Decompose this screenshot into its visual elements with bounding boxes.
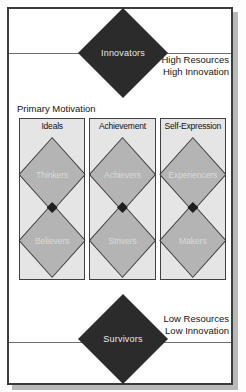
figure-frame: Innovators High Resources High Innovatio…: [7, 7, 233, 385]
strivers-label: Strivers: [89, 203, 156, 278]
vals-framework-figure: Innovators High Resources High Innovatio…: [0, 0, 246, 392]
column-ideals-header: Ideals: [20, 121, 84, 131]
primary-motivation-title: Primary Motivation: [17, 103, 96, 114]
column-achievement: Achievement Achievers Strivers: [89, 118, 155, 280]
low-resources-line1: Low Resources: [164, 313, 229, 325]
experiencers-label: Experiencers: [159, 137, 226, 212]
experiencers-diamond: Experiencers: [159, 137, 226, 212]
innovators-label: Innovators: [78, 8, 168, 98]
survivors-label: Survivors: [78, 294, 168, 384]
makers-label: Makers: [159, 203, 226, 278]
column-ideals: Ideals Thinkers Believers: [19, 118, 85, 280]
low-resources-line2: Low Innovation: [164, 325, 229, 337]
high-resources-line1: High Resources: [161, 54, 229, 66]
column-achievement-header: Achievement: [90, 121, 154, 131]
column-self-expression-header: Self-Expression: [161, 121, 225, 131]
column-self-expression: Self-Expression Experiencers Makers: [160, 118, 226, 280]
survivors-diamond: Survivors: [78, 294, 168, 384]
makers-diamond: Makers: [159, 203, 226, 278]
achievers-diamond: Achievers: [89, 137, 156, 212]
believers-diamond: Believers: [18, 203, 85, 278]
motivation-columns: Ideals Thinkers Believers Achievement: [19, 118, 226, 280]
innovators-diamond: Innovators: [78, 8, 168, 98]
believers-label: Believers: [18, 203, 85, 278]
low-resources-label: Low Resources Low Innovation: [164, 313, 229, 336]
thinkers-label: Thinkers: [18, 137, 85, 212]
strivers-diamond: Strivers: [89, 203, 156, 278]
achievers-label: Achievers: [89, 137, 156, 212]
high-resources-label: High Resources High Innovation: [161, 54, 229, 77]
thinkers-diamond: Thinkers: [18, 137, 85, 212]
high-resources-line2: High Innovation: [161, 66, 229, 78]
